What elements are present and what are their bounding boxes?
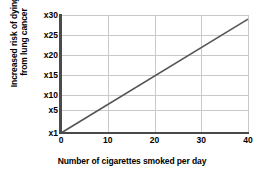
y-tick-label: x10 — [32, 91, 58, 100]
x-tick-label: 10 — [96, 136, 120, 145]
x-axis-spine — [60, 132, 249, 134]
x-axis-title: Number of cigarettes smoked per day — [0, 156, 264, 166]
gridline-vertical — [248, 15, 249, 133]
x-tick-label: 30 — [189, 136, 213, 145]
x-tick-labels: 0 10 20 30 40 — [0, 136, 264, 150]
y-tick-label: x30 — [32, 11, 58, 20]
x-tick-label: 0 — [49, 136, 73, 145]
plot-area — [61, 15, 248, 133]
y-tick-label: x5 — [32, 106, 58, 115]
data-series-line — [61, 15, 248, 133]
x-tick-label: 20 — [143, 136, 167, 145]
y-axis-title-line-2: from lung cancer — [20, 8, 30, 75]
x-tick-label: 40 — [236, 136, 260, 145]
y-tick-label: x15 — [32, 71, 58, 80]
chart-figure: Increased risk of dying from lung cancer… — [0, 0, 264, 179]
y-tick-label: x25 — [32, 31, 58, 40]
y-tick-label: x20 — [32, 51, 58, 60]
y-tick-labels: x30 x25 x20 x15 x10 x5 x1 — [30, 0, 58, 179]
y-axis-spine — [59, 14, 62, 134]
